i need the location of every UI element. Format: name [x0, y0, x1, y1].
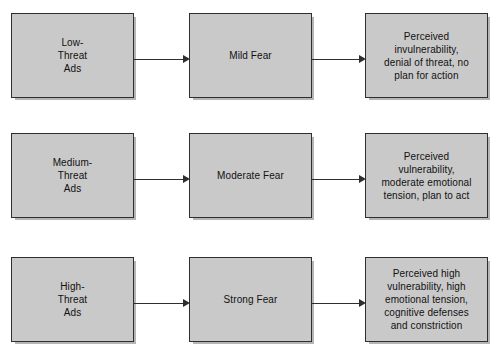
- node-label: Perceived invulnerability, denial of thr…: [384, 30, 469, 82]
- node-outcome-low-threat: Perceived invulnerability, denial of thr…: [365, 13, 488, 98]
- arrow-fear-to-outcome-medium: [312, 175, 366, 184]
- node-label: Medium- Threat Ads: [53, 156, 93, 195]
- fear-appeal-flow-diagram: Low- Threat Ads Mild Fear Perceived invu…: [0, 0, 495, 359]
- node-outcome-medium-threat: Perceived vulnerability, moderate emotio…: [365, 133, 488, 218]
- node-stimulus-medium-threat: Medium- Threat Ads: [11, 133, 134, 218]
- diagram-row-high-threat: High- Threat Ads Strong Fear Perceived h…: [0, 257, 495, 343]
- node-label: Perceived high vulnerability, high emoti…: [384, 267, 469, 332]
- arrow-line: [134, 179, 184, 180]
- arrow-line: [134, 303, 184, 304]
- arrow-line: [312, 179, 360, 180]
- arrow-line: [134, 59, 184, 60]
- node-stimulus-high-threat: High- Threat Ads: [11, 257, 134, 342]
- node-stimulus-low-threat: Low- Threat Ads: [11, 13, 134, 98]
- arrow-stimulus-to-fear-low: [134, 55, 190, 64]
- diagram-row-medium-threat: Medium- Threat Ads Moderate Fear Perceiv…: [0, 133, 495, 219]
- node-label: Low- Threat Ads: [58, 36, 88, 75]
- node-label: High- Threat Ads: [58, 280, 88, 319]
- node-label: Perceived vulnerability, moderate emotio…: [381, 150, 471, 202]
- node-label: Moderate Fear: [217, 169, 284, 182]
- node-fear-high-threat: Strong Fear: [189, 257, 312, 342]
- arrow-line: [312, 303, 360, 304]
- arrow-fear-to-outcome-low: [312, 55, 366, 64]
- arrow-stimulus-to-fear-medium: [134, 175, 190, 184]
- arrow-fear-to-outcome-high: [312, 299, 366, 308]
- arrow-stimulus-to-fear-high: [134, 299, 190, 308]
- node-outcome-high-threat: Perceived high vulnerability, high emoti…: [365, 257, 488, 342]
- diagram-row-low-threat: Low- Threat Ads Mild Fear Perceived invu…: [0, 13, 495, 99]
- node-label: Strong Fear: [224, 293, 278, 306]
- node-fear-low-threat: Mild Fear: [189, 13, 312, 98]
- arrow-line: [312, 59, 360, 60]
- node-label: Mild Fear: [229, 49, 272, 62]
- node-fear-medium-threat: Moderate Fear: [189, 133, 312, 218]
